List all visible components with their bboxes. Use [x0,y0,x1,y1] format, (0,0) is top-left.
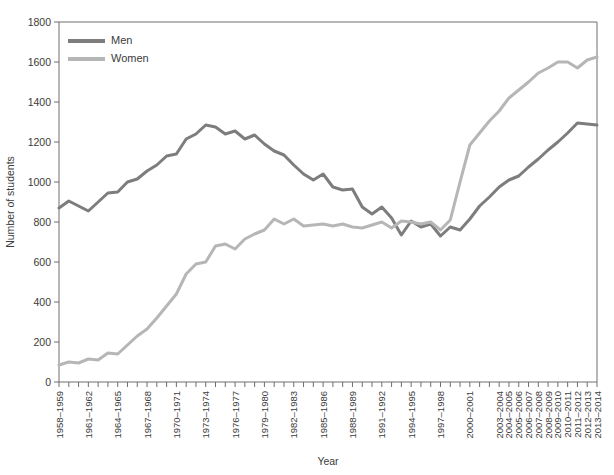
series-line-women [59,57,597,365]
y-tick-label: 200 [33,336,51,348]
y-tick-label: 800 [33,216,51,228]
x-axis-title: Year [317,455,339,467]
x-tick-label: 1988–1989 [347,391,358,439]
x-tick-label: 1958–1959 [54,391,65,439]
x-tick-label: 1973–1974 [200,391,211,439]
x-tick-label: 1979–1980 [259,391,270,439]
x-tick-label: 1991–1992 [376,391,387,439]
x-tick-label: 1994–1995 [406,391,417,439]
x-tick-label: 1976–1977 [230,391,241,439]
x-tick-label: 2013–2014 [592,391,603,439]
x-tick-label: 1997–1998 [435,391,446,439]
x-tick-label: 1970–1971 [171,391,182,439]
x-tick-label: 1967–1968 [142,391,153,439]
plot-frame [59,22,597,382]
y-tick-label: 400 [33,296,51,308]
y-axis-title: Number of students [4,156,16,248]
y-tick-label: 1200 [28,136,52,148]
x-tick-label: 1982–1983 [288,391,299,439]
x-tick-label: 1961–1962 [83,391,94,439]
line-chart: 0200400600800100012001400160018001958–19… [0,0,614,475]
legend-label-women: Women [111,52,149,64]
series-line-men [59,123,597,236]
y-tick-label: 600 [33,256,51,268]
x-tick-label: 2000–2001 [464,391,475,439]
x-tick-label: 1985–1986 [318,391,329,439]
legend-label-men: Men [111,34,132,46]
y-tick-label: 1600 [28,56,52,68]
y-tick-label: 1800 [28,16,52,28]
chart-canvas: 0200400600800100012001400160018001958–19… [0,0,614,475]
y-tick-label: 0 [45,376,51,388]
x-tick-label: 1964–1965 [112,391,123,439]
y-tick-label: 1000 [28,176,52,188]
y-tick-label: 1400 [28,96,52,108]
